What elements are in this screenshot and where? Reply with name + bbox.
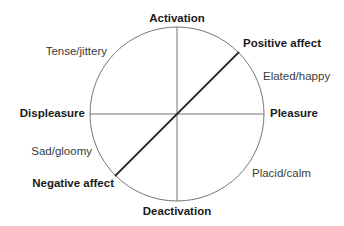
label-displeasure: Displeasure bbox=[20, 108, 85, 120]
label-sad-gloomy: Sad/gloomy bbox=[31, 146, 92, 158]
label-activation: Activation bbox=[149, 13, 205, 25]
label-positive-affect: Positive affect bbox=[243, 38, 321, 50]
label-pleasure: Pleasure bbox=[270, 108, 318, 120]
label-tense-jittery: Tense/jittery bbox=[46, 46, 107, 58]
label-negative-affect: Negative affect bbox=[32, 178, 114, 190]
label-deactivation: Deactivation bbox=[143, 206, 211, 218]
affect-circumplex-diagram: Activation Deactivation Displeasure Plea… bbox=[0, 0, 344, 226]
label-placid-calm: Placid/calm bbox=[252, 168, 311, 180]
label-elated-happy: Elated/happy bbox=[263, 71, 330, 83]
